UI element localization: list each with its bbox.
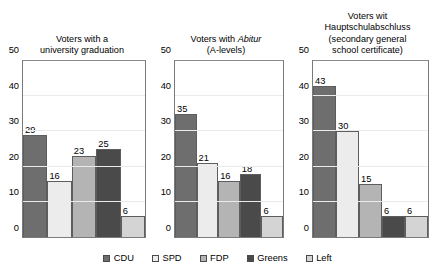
bar-value-label: 16 xyxy=(48,171,59,181)
bar-group: 43301566 xyxy=(313,61,428,237)
panel-title-abitur: Voters with Abitur (A-levels) xyxy=(152,0,290,60)
y-axis-tick-label: 40 xyxy=(9,81,19,91)
panel-title-line: (secondary general xyxy=(304,34,431,45)
bar-value-label: 6 xyxy=(383,206,389,216)
y-axis-tick-label: 20 xyxy=(161,152,171,162)
plot-wrapper: 01020304050 43301566 xyxy=(290,60,435,238)
y-axis-tick-label: 20 xyxy=(299,152,309,162)
bar-value-label: 16 xyxy=(219,171,230,181)
bar-value-label: 43 xyxy=(314,76,325,86)
panel-title-line: Voters wit xyxy=(304,11,431,22)
gridline xyxy=(175,95,283,96)
y-axis-tick-label: 50 xyxy=(9,45,19,55)
legend-item-greens: Greens xyxy=(247,253,288,263)
gridline xyxy=(313,130,428,131)
bar-fdp: 23 xyxy=(72,156,96,237)
legend-label: SPD xyxy=(162,253,181,263)
y-axis-tick-label: 40 xyxy=(161,81,171,91)
panel-title-line: school certificate) xyxy=(304,45,431,56)
chart-panel-abitur: Voters with Abitur (A-levels) 0102030405… xyxy=(152,0,290,238)
bar-value-label: 15 xyxy=(360,174,371,184)
gridline xyxy=(23,201,145,202)
panel-title-text: Voters with xyxy=(191,34,238,44)
y-axis-tick-label: 0 xyxy=(14,223,19,233)
legend-label: FDP xyxy=(210,253,229,263)
y-axis-tick-label: 50 xyxy=(299,45,309,55)
gridline xyxy=(23,166,145,167)
legend-label: Left xyxy=(316,253,332,263)
bar-chart-figure: Voters with a university graduation 0102… xyxy=(0,0,435,267)
bar-value-label: 6 xyxy=(122,206,128,216)
y-axis-tick-label: 30 xyxy=(161,116,171,126)
y-axis-tick-label: 10 xyxy=(9,187,19,197)
bar-greens: 6 xyxy=(382,216,405,237)
y-axis: 01020304050 xyxy=(290,60,312,238)
gridline xyxy=(175,166,283,167)
bar-value-label: 6 xyxy=(262,206,268,216)
legend-label: Greens xyxy=(257,253,288,263)
gridline xyxy=(313,201,428,202)
panel-title-university: Voters with a university graduation xyxy=(0,0,152,60)
bar-cdu: 43 xyxy=(313,86,336,237)
plot-wrapper: 01020304050 352116186 xyxy=(152,60,290,238)
chart-panels: Voters with a university graduation 0102… xyxy=(0,0,435,238)
legend-item-fdp: FDP xyxy=(200,253,229,263)
panel-title-line: Hauptschulabschluss xyxy=(304,22,431,33)
panel-title-line: Voters with Abitur xyxy=(166,34,286,45)
panel-title-hauptschule: Voters wit Hauptschulabschluss (secondar… xyxy=(290,0,435,60)
chart-legend: CDUSPDFDPGreensLeft xyxy=(0,253,435,263)
legend-swatch xyxy=(200,255,207,262)
bar-value-label: 23 xyxy=(73,146,84,156)
plot-area: 43301566 xyxy=(312,60,429,238)
legend-swatch xyxy=(247,255,254,262)
y-axis-tick-label: 30 xyxy=(299,116,309,126)
gridline xyxy=(23,95,145,96)
legend-swatch xyxy=(152,255,159,262)
chart-panel-hauptschule: Voters wit Hauptschulabschluss (secondar… xyxy=(290,0,435,238)
bar-fdp: 16 xyxy=(218,181,240,237)
bar-greens: 25 xyxy=(96,149,120,237)
gridline xyxy=(23,130,145,131)
y-axis-tick-label: 0 xyxy=(304,223,309,233)
plot-area: 352116186 xyxy=(174,60,284,238)
legend-item-cdu: CDU xyxy=(103,253,134,263)
y-axis: 01020304050 xyxy=(152,60,174,238)
legend-swatch xyxy=(103,255,110,262)
y-axis: 01020304050 xyxy=(0,60,22,238)
bar-cdu: 29 xyxy=(23,135,47,237)
bar-spd: 30 xyxy=(336,131,359,237)
bar-value-label: 6 xyxy=(406,206,412,216)
gridline xyxy=(313,166,428,167)
legend-item-left: Left xyxy=(306,253,332,263)
y-axis-tick-label: 10 xyxy=(161,187,171,197)
panel-title-line: (A-levels) xyxy=(166,45,286,56)
y-axis-tick-label: 50 xyxy=(161,45,171,55)
gridline xyxy=(175,130,283,131)
bar-left: 6 xyxy=(261,216,283,237)
panel-title-line: university graduation xyxy=(16,45,148,56)
y-axis-tick-label: 20 xyxy=(9,152,19,162)
plot-area: 291623256 xyxy=(22,60,146,238)
legend-label: CDU xyxy=(114,253,134,263)
bar-spd: 16 xyxy=(47,181,71,237)
legend-swatch xyxy=(306,255,313,262)
legend-item-spd: SPD xyxy=(152,253,182,263)
y-axis-tick-label: 10 xyxy=(299,187,309,197)
bar-left: 6 xyxy=(405,216,428,237)
y-axis-tick-label: 40 xyxy=(299,81,309,91)
y-axis-tick-label: 30 xyxy=(9,116,19,126)
bar-value-label: 21 xyxy=(198,153,209,163)
bar-left: 6 xyxy=(121,216,145,237)
gridline xyxy=(175,201,283,202)
panel-title-italic: Abitur xyxy=(238,34,262,44)
chart-panel-university: Voters with a university graduation 0102… xyxy=(0,0,152,238)
bar-group: 291623256 xyxy=(23,61,145,237)
gridline xyxy=(313,95,428,96)
bar-value-label: 35 xyxy=(176,104,187,114)
bar-fdp: 15 xyxy=(359,184,382,237)
bar-cdu: 35 xyxy=(175,114,197,237)
bar-value-label: 25 xyxy=(97,139,108,149)
y-axis-tick-label: 0 xyxy=(166,223,171,233)
bar-greens: 18 xyxy=(240,174,262,237)
bar-group: 352116186 xyxy=(175,61,283,237)
